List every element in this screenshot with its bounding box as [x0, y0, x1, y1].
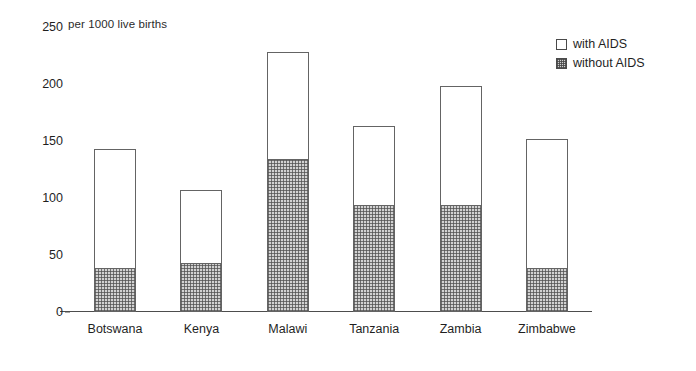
y-axis-tick-label: 250 — [42, 20, 63, 34]
bar-group — [418, 27, 504, 312]
y-axis-tick-label: 100 — [42, 191, 63, 205]
bar-segment-without-aids[interactable] — [180, 263, 222, 312]
y-axis-tick-mark — [65, 312, 70, 313]
x-axis-category-label: Botswana — [72, 322, 158, 336]
bar-segment-without-aids[interactable] — [267, 159, 309, 312]
y-axis-tick-label: 50 — [49, 248, 63, 262]
bar-segment-with-aids[interactable] — [180, 190, 222, 263]
stacked-bar[interactable] — [353, 126, 395, 312]
bar-segment-without-aids[interactable] — [353, 205, 395, 312]
bar-segment-with-aids[interactable] — [353, 126, 395, 205]
bar-group — [504, 27, 590, 312]
stacked-bar[interactable] — [440, 86, 482, 312]
stacked-bar[interactable] — [267, 52, 309, 312]
bar-segment-with-aids[interactable] — [94, 149, 136, 268]
x-axis-category-label: Tanzania — [331, 322, 417, 336]
stacked-bar[interactable] — [180, 190, 222, 312]
y-axis-tick-label: 0 — [56, 305, 63, 319]
bar-group — [158, 27, 244, 312]
y-axis-tick-label: 150 — [42, 134, 63, 148]
x-axis-category-label: Kenya — [158, 322, 244, 336]
y-axis-tick-label: 200 — [42, 77, 63, 91]
chart-page: per 1000 live births with AIDS without A… — [0, 0, 696, 371]
bar-segment-without-aids[interactable] — [526, 268, 568, 312]
bar-segment-with-aids[interactable] — [526, 139, 568, 268]
bar-segment-without-aids[interactable] — [94, 268, 136, 312]
x-axis-category-label: Malawi — [245, 322, 331, 336]
x-axis-category-label: Zambia — [418, 322, 504, 336]
x-axis-category-labels: BotswanaKenyaMalawiTanzaniaZambiaZimbabw… — [72, 322, 590, 336]
x-axis-category-label: Zimbabwe — [504, 322, 590, 336]
bar-series-container — [72, 27, 590, 312]
stacked-bar[interactable] — [526, 139, 568, 312]
bar-group — [72, 27, 158, 312]
stacked-bar[interactable] — [94, 149, 136, 312]
plot-area: 050100150200250 — [72, 27, 590, 312]
bar-segment-with-aids[interactable] — [267, 52, 309, 159]
bar-segment-without-aids[interactable] — [440, 205, 482, 312]
bar-group — [331, 27, 417, 312]
bar-segment-with-aids[interactable] — [440, 86, 482, 205]
bar-group — [245, 27, 331, 312]
